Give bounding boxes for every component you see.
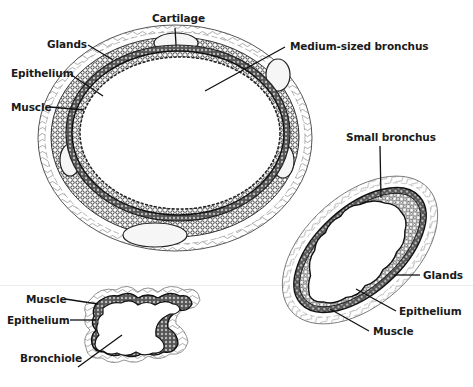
label-bronchiole: Bronchiole xyxy=(20,352,82,364)
cartilage-plate xyxy=(123,223,187,247)
label-glands: Glands xyxy=(47,38,87,50)
label-muscle-bronchiole: Muscle xyxy=(26,293,67,305)
label-small-bronchus: Small bronchus xyxy=(346,131,436,143)
label-epithelium-bronchiole: Epithelium xyxy=(7,314,70,326)
label-glands-small: Glands xyxy=(423,269,463,281)
label-muscle-small: Muscle xyxy=(373,325,414,337)
label-muscle: Muscle xyxy=(11,101,52,113)
label-epithelium: Epithelium xyxy=(11,67,74,79)
label-epithelium-small: Epithelium xyxy=(399,305,462,317)
label-medium-bronchus: Medium-sized bronchus xyxy=(290,40,428,52)
medium-bronchus-lumen xyxy=(80,57,280,209)
bronchiole-drawing xyxy=(85,286,200,362)
medium-bronchus-drawing xyxy=(38,25,312,251)
airway-histology-diagram: Cartilage Glands Epithelium Muscle Mediu… xyxy=(0,0,473,387)
label-cartilage: Cartilage xyxy=(152,12,205,24)
